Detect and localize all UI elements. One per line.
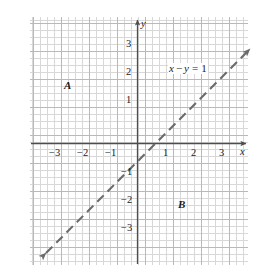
equation-minus-sign: − [176, 62, 182, 74]
x-tick-label--2: −2 [77, 148, 88, 159]
x-tick-label-1: 1 [163, 148, 168, 159]
plot-svg [0, 0, 270, 277]
equation-term-y: y [184, 62, 189, 74]
equation-rhs-value: 1 [201, 62, 207, 74]
y-tick-label-3: 3 [126, 39, 131, 50]
region-label-a: A [64, 80, 71, 91]
coordinate-plane-figure: −3 −2 −1 1 2 3 3 2 1 −1 −2 −3 x y A B x−… [0, 0, 270, 277]
y-axis-label: y [141, 19, 146, 30]
x-tick-label--1: −1 [105, 148, 116, 159]
y-tick-label--1: −1 [121, 167, 132, 178]
y-tick-label-2: 2 [126, 67, 131, 78]
x-axis-label: x [240, 147, 245, 158]
equation-label: x−y=1 [168, 63, 208, 74]
equation-equals-sign: = [192, 62, 198, 74]
x-tick-label--3: −3 [49, 148, 60, 159]
x-tick-label-3: 3 [219, 148, 224, 159]
region-label-b: B [178, 199, 185, 210]
y-tick-label-1: 1 [126, 95, 131, 106]
x-tick-label-2: 2 [191, 148, 196, 159]
y-tick-label--2: −2 [121, 195, 132, 206]
y-tick-label--3: −3 [121, 223, 132, 234]
equation-term-x: x [169, 62, 174, 74]
